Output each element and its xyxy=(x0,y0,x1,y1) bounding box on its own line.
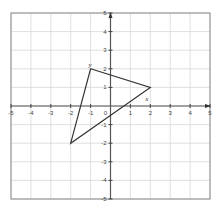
y-tick-label: -5 xyxy=(101,196,107,202)
x-tick-label: -2 xyxy=(68,110,74,116)
x-tick-label: 5 xyxy=(208,110,212,116)
y-tick-label: -3 xyxy=(101,159,107,165)
x-tick-label: 4 xyxy=(188,110,192,116)
x-label: x xyxy=(144,95,149,103)
y-tick-label: -1 xyxy=(101,122,107,128)
y-tick-label: -4 xyxy=(101,177,107,183)
x-tick-label: -1 xyxy=(88,110,94,116)
x-tick-label: 0 xyxy=(104,110,108,116)
x-tick-label: -4 xyxy=(28,110,34,116)
x-tick-label: -3 xyxy=(48,110,54,116)
y-tick-label: -2 xyxy=(101,140,107,146)
coordinate-plane: -5-4-3-2-101234554321-1-2-3-4-5 y x xyxy=(0,0,219,209)
y-label: y xyxy=(88,61,93,69)
x-tick-label: 3 xyxy=(169,110,173,116)
x-tick-label: 1 xyxy=(129,110,133,116)
x-tick-label: -5 xyxy=(8,110,14,116)
x-tick-label: 2 xyxy=(149,110,153,116)
